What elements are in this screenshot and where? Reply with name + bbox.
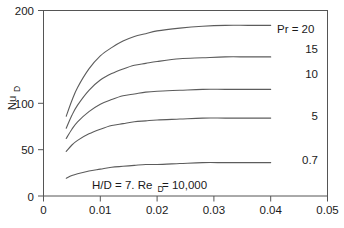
data-series-group: [66, 25, 270, 178]
x-axis-tick-labels: 0 0.01 0.02 0.03 0.04 0.05: [40, 204, 338, 216]
series-curve-pr-10: [66, 89, 270, 138]
nusselt-number-line-chart: 200 100 50 0 Nu D 0 0.01 0.02 0.03: [0, 0, 344, 228]
series-label-pr-20: Pr = 20: [277, 23, 314, 35]
y-axis-ticks: [38, 11, 44, 197]
series-label-pr-10: 10: [305, 68, 318, 80]
series-curve-pr-20: [66, 25, 270, 116]
x-tick-label-0-05: 0.05: [316, 204, 338, 216]
y-axis-title-main: Nu: [6, 96, 18, 111]
series-label-pr-0-7: 0.7: [302, 154, 318, 166]
y-tick-label-50: 50: [21, 144, 34, 156]
plot-annotation: H/D = 7. Re D = 10,000: [92, 179, 207, 194]
x-axis-ticks: [44, 196, 328, 202]
x-tick-label-0-04: 0.04: [260, 204, 283, 216]
annotation-tail: = 10,000: [162, 179, 207, 191]
y-tick-label-200: 200: [15, 5, 34, 17]
series-curve-pr-0-7: [66, 163, 270, 179]
x-tick-label-0-03: 0.03: [203, 204, 225, 216]
x-tick-label-0: 0: [40, 204, 46, 216]
plot-frame: [44, 11, 328, 197]
y-axis-title-subscript: D: [12, 86, 22, 92]
x-tick-label-0-01: 0.01: [89, 204, 111, 216]
series-curve-pr-5: [66, 118, 270, 151]
annotation-main: H/D = 7. Re: [92, 179, 152, 191]
series-label-pr-15: 15: [305, 43, 318, 55]
series-label-pr-5: 5: [312, 110, 318, 122]
y-tick-label-0: 0: [28, 191, 34, 203]
chart-figure: 200 100 50 0 Nu D 0 0.01 0.02 0.03: [0, 0, 344, 228]
series-label-group: Pr = 20151050.7: [277, 23, 318, 166]
x-tick-label-0-02: 0.02: [146, 204, 168, 216]
